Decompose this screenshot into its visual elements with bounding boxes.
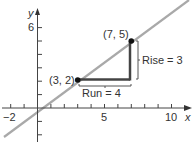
y-axis-arrow-icon — [35, 8, 40, 15]
y-ticks — [38, 28, 43, 135]
x-tick-label-neg2: −2 — [3, 111, 16, 123]
run-bracket — [79, 84, 131, 86]
x-axis-label: x — [184, 111, 191, 123]
rise-bracket — [136, 41, 138, 79]
run-label: Run = 4 — [82, 87, 121, 99]
chart-canvas: −2 5 10 6 x y Run = 4 Rise = 3 (3, 2) (7… — [0, 0, 193, 142]
rise-label: Rise = 3 — [142, 54, 183, 66]
x-tick-label-10: 10 — [165, 111, 177, 123]
point-label-7-5: (7, 5) — [103, 28, 129, 40]
point-3-2 — [75, 77, 81, 83]
slope-chart: −2 5 10 6 x y Run = 4 Rise = 3 (3, 2) (7… — [0, 0, 193, 142]
y-tick-label-6: 6 — [28, 21, 34, 33]
y-axis-label: y — [27, 7, 35, 19]
point-label-3-2: (3, 2) — [49, 74, 75, 86]
point-7-5 — [129, 38, 135, 44]
x-ticks — [11, 104, 172, 108]
x-tick-label-5: 5 — [101, 111, 107, 123]
